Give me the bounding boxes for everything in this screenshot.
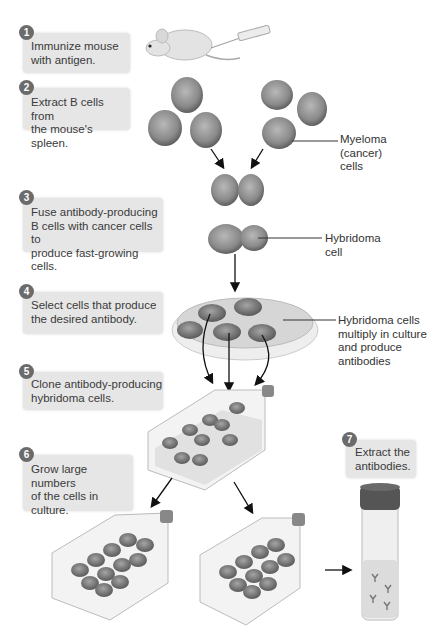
hybridoma-cell-label: Hybridoma cell	[325, 232, 381, 259]
step-5-badge: 5	[19, 364, 34, 379]
step-3-badge: 3	[19, 190, 34, 205]
step-1-text: Immunize mouse with antigen.	[31, 40, 119, 67]
step-6-box: 6 Grow large numbers of the cells in cul…	[23, 455, 133, 511]
clone-flask	[148, 385, 274, 490]
step-2-text: Extract B cells from the mouse's spleen.	[31, 96, 130, 150]
step-2-badge: 2	[19, 80, 34, 95]
hybridoma-cell	[208, 224, 322, 254]
step-4-box: 4 Select cells that produce the desired …	[23, 292, 163, 334]
b-cells	[148, 77, 222, 148]
step-5-text: Clone antibody-producing hybridoma cells…	[31, 378, 162, 405]
step-5-box: 5 Clone antibody-producing hybridoma cel…	[23, 372, 163, 410]
step-1-badge: 1	[19, 25, 34, 40]
myeloma-cells	[261, 80, 338, 149]
step-4-text: Select cells that produce the desired an…	[31, 299, 156, 326]
culture-flask-right	[200, 513, 305, 625]
hybridoma-culture-label: Hybridoma cells multiply in culture and …	[338, 314, 427, 368]
step-7-box: 7 Extract the antibodies.	[346, 440, 416, 478]
step-1-box: 1 Immunize mouse with antigen.	[23, 33, 130, 73]
step-3-text: Fuse antibody-producing B cells with can…	[31, 206, 163, 274]
step-3-box: 3 Fuse antibody-producing B cells with c…	[23, 198, 163, 252]
step-7-text: Extract the antibodies.	[355, 446, 411, 473]
antibody-vial	[360, 483, 400, 620]
step-6-badge: 6	[19, 447, 34, 462]
petri-dish	[172, 298, 336, 360]
step-7-badge: 7	[342, 432, 357, 447]
mouse-illustration	[146, 25, 270, 60]
myeloma-label: Myeloma (cancer) cells	[340, 133, 387, 174]
step-2-box: 2 Extract B cells from the mouse's splee…	[23, 88, 130, 130]
step-6-text: Grow large numbers of the cells in cultu…	[31, 463, 133, 517]
step-4-badge: 4	[19, 284, 34, 299]
culture-flask-left	[52, 510, 173, 620]
